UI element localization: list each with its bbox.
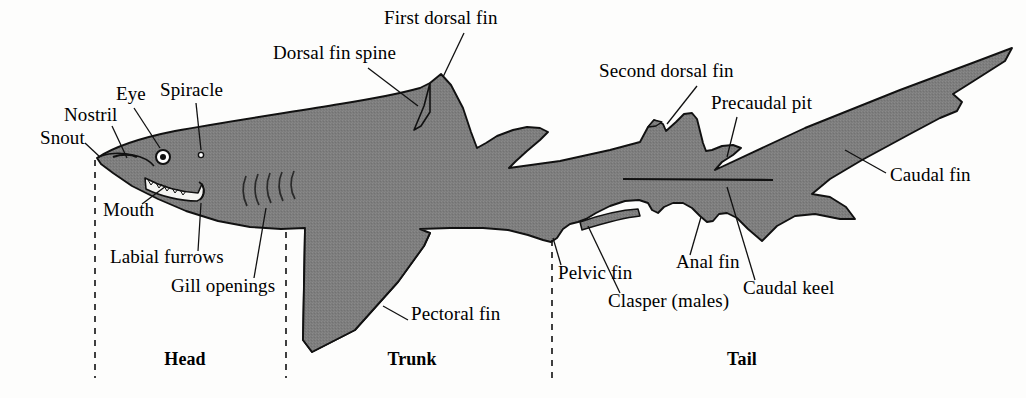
label-pectoral-fin: Pectoral fin <box>411 304 500 324</box>
label-mouth: Mouth <box>103 200 154 220</box>
label-snout: Snout <box>40 128 85 148</box>
region-label-tail: Tail <box>727 350 757 369</box>
label-pelvic-fin: Pelvic fin <box>558 263 632 283</box>
label-caudal-fin: Caudal fin <box>890 165 971 185</box>
label-nostril: Nostril <box>64 105 117 125</box>
leader-first-dorsal <box>443 33 464 77</box>
label-labial-furrows: Labial furrows <box>110 247 224 267</box>
label-first-dorsal-fin: First dorsal fin <box>384 8 498 28</box>
eye-shape <box>156 150 170 164</box>
label-dorsal-fin-spine: Dorsal fin spine <box>273 43 396 63</box>
label-second-dorsal-fin: Second dorsal fin <box>599 61 734 81</box>
leader-pelvic-fin <box>553 238 561 265</box>
label-clasper: Clasper (males) <box>608 291 729 311</box>
region-label-trunk: Trunk <box>387 350 436 369</box>
lateral-line <box>623 179 773 180</box>
shark-body-shape <box>97 48 1012 352</box>
label-caudal-keel: Caudal keel <box>743 278 834 298</box>
label-eye: Eye <box>116 84 146 104</box>
region-label-head: Head <box>164 350 205 369</box>
label-gill-openings: Gill openings <box>171 276 275 296</box>
leader-pectoral-fin <box>383 306 408 320</box>
label-anal-fin: Anal fin <box>676 252 740 272</box>
leader-anal-fin <box>690 217 701 255</box>
shark-anatomy-diagram: Snout Nostril Eye Spiracle Mouth Labial … <box>0 0 1026 398</box>
label-precaudal-pit: Precaudal pit <box>711 93 812 113</box>
label-spiracle: Spiracle <box>160 80 223 100</box>
leader-snout <box>85 143 100 157</box>
spiracle-shape <box>198 152 203 157</box>
